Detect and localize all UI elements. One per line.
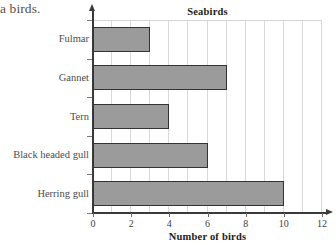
x-axis-tick-label: 6: [196, 218, 220, 229]
category-label: Gannet: [59, 72, 89, 83]
y-axis-tick: [87, 20, 92, 21]
x-axis-tick: [246, 213, 247, 217]
bar: [93, 65, 227, 90]
x-axis-title: Number of birds: [93, 231, 322, 242]
chart-page: a birds. Seabirds 024681012 FulmarGannet…: [0, 0, 336, 245]
y-axis-arrow-icon: [89, 4, 95, 11]
x-axis-tick: [93, 213, 94, 217]
y-axis-tick: [87, 59, 92, 60]
x-axis-line: [92, 212, 327, 214]
x-axis-tick-label: 12: [310, 218, 334, 229]
x-axis-tick-label: 8: [234, 218, 258, 229]
gridline: [321, 21, 322, 213]
bar: [93, 181, 284, 206]
x-axis-tick: [131, 213, 132, 217]
x-axis-tick: [284, 213, 285, 217]
x-axis-arrow-icon: [326, 209, 333, 215]
category-label: Herring gull: [37, 188, 89, 199]
x-axis-tick: [208, 213, 209, 217]
bar: [93, 143, 208, 168]
y-axis-tick: [87, 174, 92, 175]
category-label: Black headed gull: [13, 149, 89, 160]
category-label: Tern: [70, 111, 89, 122]
bar: [93, 104, 169, 129]
category-label: Fulmar: [59, 33, 89, 44]
y-axis-tick: [87, 213, 92, 214]
bar: [93, 27, 150, 52]
x-axis-tick-label: 2: [119, 218, 143, 229]
x-axis-tick-label: 10: [272, 218, 296, 229]
chart-title: Seabirds: [93, 6, 322, 17]
x-axis-tick: [169, 213, 170, 217]
document-text-fragment: a birds.: [0, 1, 41, 17]
gridline: [302, 21, 303, 213]
y-axis-tick: [87, 136, 92, 137]
y-axis-tick: [87, 97, 92, 98]
x-axis-tick: [322, 213, 323, 217]
x-axis-tick-label: 0: [81, 218, 105, 229]
x-axis-tick-label: 4: [157, 218, 181, 229]
